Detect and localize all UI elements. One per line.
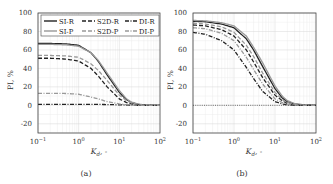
x-tick-label: 10−1 (185, 136, 201, 146)
panel-a-y-ticks: -20020406080100 (19, 9, 32, 128)
panel-b-caption: (b) (236, 169, 247, 178)
panel-a-chart: -20020406080100 10−1100101102 PI, % Kd, … (6, 9, 166, 178)
series-line-di-r (193, 32, 316, 105)
panel-b-chart: -20020406080100 10−1100101102 PI, % Kd, … (166, 9, 322, 178)
y-tick-label: -20 (176, 120, 187, 128)
x-tick-label: 102 (154, 136, 166, 146)
svg-text:DI-P: DI-P (139, 28, 154, 36)
panel-a-caption: (a) (80, 169, 91, 178)
panel-b-x-ticks: 10−1100101102 (185, 136, 322, 146)
figure: -20020406080100 10−1100101102 PI, % Kd, … (0, 0, 333, 184)
x-tick-label: 100 (73, 136, 85, 146)
panel-a-x-ticks: 10−1100101102 (30, 136, 166, 146)
series-line-si-p (193, 20, 316, 105)
y-tick-label: 80 (178, 28, 187, 36)
x-tick-label: 102 (310, 136, 322, 146)
panel-b-y-ticks: -20020406080100 (174, 9, 187, 128)
svg-text:S2D-R: S2D-R (97, 18, 120, 26)
y-tick-label: 20 (23, 83, 32, 91)
x-tick-label: 101 (113, 136, 125, 146)
series-line-di-p (193, 28, 316, 106)
y-tick-label: 20 (178, 83, 187, 91)
y-tick-label: 40 (178, 65, 187, 73)
x-tick-label: 10−1 (30, 136, 46, 146)
y-tick-label: 100 (19, 9, 32, 17)
x-tick-label: 100 (228, 136, 240, 146)
y-tick-label: 60 (178, 46, 187, 54)
series-line-s2d-r (38, 58, 160, 105)
y-tick-label: 60 (23, 46, 32, 54)
y-tick-label: -20 (21, 120, 32, 128)
y-tick-label: 80 (23, 28, 32, 36)
legend: SI-R S2D-R DI-R SI-P S2D-P DI-P (41, 15, 159, 36)
y-tick-label: 100 (174, 9, 187, 17)
series-line-di-p (38, 93, 160, 105)
panel-a-ylabel: PI, % (6, 70, 15, 90)
panel-b-ylabel: PI, % (166, 70, 175, 90)
x-tick-label: 101 (269, 136, 281, 146)
svg-text:SI-R: SI-R (59, 18, 75, 26)
panel-a-xlabel: Kd, - (90, 147, 108, 157)
series-line-si-r (193, 21, 316, 105)
y-tick-label: 0 (183, 102, 187, 110)
svg-text:SI-P: SI-P (59, 28, 74, 36)
y-tick-label: 0 (28, 102, 32, 110)
panel-b-series (193, 20, 316, 105)
y-tick-label: 40 (23, 65, 32, 73)
svg-text:DI-R: DI-R (139, 18, 155, 26)
svg-text:S2D-P: S2D-P (97, 28, 119, 36)
panel-b-xlabel: Kd, - (245, 147, 263, 157)
